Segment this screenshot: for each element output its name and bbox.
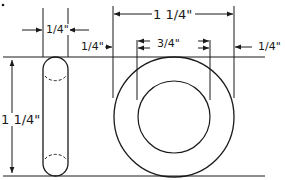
outer-circle	[114, 57, 234, 177]
inner-diameter-label: 3/4"	[156, 38, 181, 49]
wall-right-label: 1/4"	[257, 41, 282, 52]
side-width-label: 1/4"	[45, 24, 70, 35]
outer-diameter-label: 1 1/4"	[152, 8, 193, 21]
inner-circle	[138, 81, 210, 153]
side-view-bottom-hidden-arc	[45, 154, 66, 159]
ring-dimension-drawing	[0, 0, 285, 180]
wall-left-label: 1/4"	[80, 41, 105, 52]
corner-mark	[2, 4, 5, 7]
side-view-ring-edge	[43, 57, 68, 176]
side-height-label: 1 1/4"	[0, 113, 41, 126]
side-view-top-hidden-arc	[45, 76, 66, 81]
